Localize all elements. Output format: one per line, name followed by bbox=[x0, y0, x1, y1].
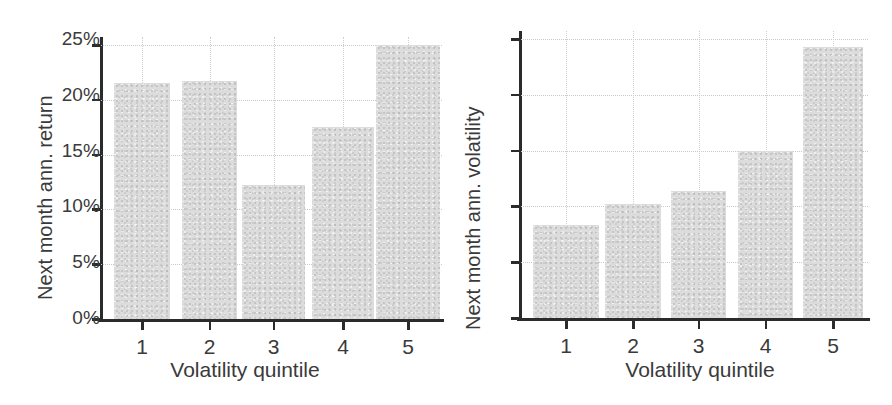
bar[interactable] bbox=[242, 185, 305, 319]
x-axis-tick bbox=[632, 320, 635, 329]
x-axis-tick bbox=[765, 320, 768, 329]
x-axis-tick bbox=[141, 321, 144, 330]
x-axis-tick-label: 2 bbox=[627, 334, 639, 358]
y-axis-tick-label: 25% bbox=[20, 28, 100, 50]
y-axis-tick bbox=[511, 317, 520, 320]
x-axis-tick bbox=[273, 321, 276, 330]
bar[interactable] bbox=[182, 81, 237, 319]
bar[interactable] bbox=[376, 45, 440, 319]
x-axis-tick-label: 4 bbox=[760, 334, 772, 358]
bar[interactable] bbox=[671, 191, 726, 318]
y-axis-tick-label: 10% bbox=[20, 195, 100, 217]
y-axis-tick bbox=[511, 205, 520, 208]
y-axis-line bbox=[100, 37, 103, 321]
y-axis-title-right: Next month ann. volatility bbox=[462, 107, 485, 330]
x-axis-line bbox=[98, 319, 444, 322]
x-axis-title-left: Volatility quintile bbox=[170, 358, 319, 382]
gridline-horizontal bbox=[519, 39, 868, 40]
bar[interactable] bbox=[605, 204, 661, 318]
y-axis-tick bbox=[511, 150, 520, 153]
x-axis-tick bbox=[342, 321, 345, 330]
x-axis-tick-label: 1 bbox=[136, 335, 148, 359]
figure-two-bar-charts: Next month ann. return 0%2%4%6%8%10%1234… bbox=[0, 0, 892, 405]
x-axis-line bbox=[517, 318, 870, 321]
x-axis-tick-label: 3 bbox=[693, 334, 705, 358]
x-axis-tick bbox=[407, 321, 410, 330]
x-axis-tick-label: 2 bbox=[204, 335, 216, 359]
y-axis-tick bbox=[511, 38, 520, 41]
bar[interactable] bbox=[312, 127, 374, 319]
bar[interactable] bbox=[114, 83, 170, 319]
y-axis-tick bbox=[511, 94, 520, 97]
y-axis-tick-label: 20% bbox=[20, 84, 100, 106]
x-axis-tick bbox=[698, 320, 701, 329]
x-axis-tick bbox=[832, 320, 835, 329]
y-axis-tick bbox=[511, 261, 520, 264]
x-axis-tick-label: 4 bbox=[337, 335, 349, 359]
bar[interactable] bbox=[803, 47, 863, 318]
y-axis-tick-label: 15% bbox=[20, 140, 100, 162]
x-axis-tick-label: 5 bbox=[402, 335, 414, 359]
y-axis-line bbox=[519, 31, 522, 320]
x-axis-tick bbox=[209, 321, 212, 330]
x-axis-tick-label: 3 bbox=[268, 335, 280, 359]
chart-panel-right: Next month ann. volatility 0%5%10%15%20%… bbox=[446, 0, 892, 405]
x-axis-tick-label: 1 bbox=[560, 334, 572, 358]
y-axis-tick-label: 0% bbox=[20, 307, 100, 329]
x-axis-tick-label: 5 bbox=[827, 334, 839, 358]
bar[interactable] bbox=[738, 151, 793, 318]
x-axis-tick bbox=[565, 320, 568, 329]
bar[interactable] bbox=[533, 225, 599, 318]
x-axis-title-right: Volatility quintile bbox=[625, 358, 774, 382]
y-axis-tick-label: 5% bbox=[20, 251, 100, 273]
